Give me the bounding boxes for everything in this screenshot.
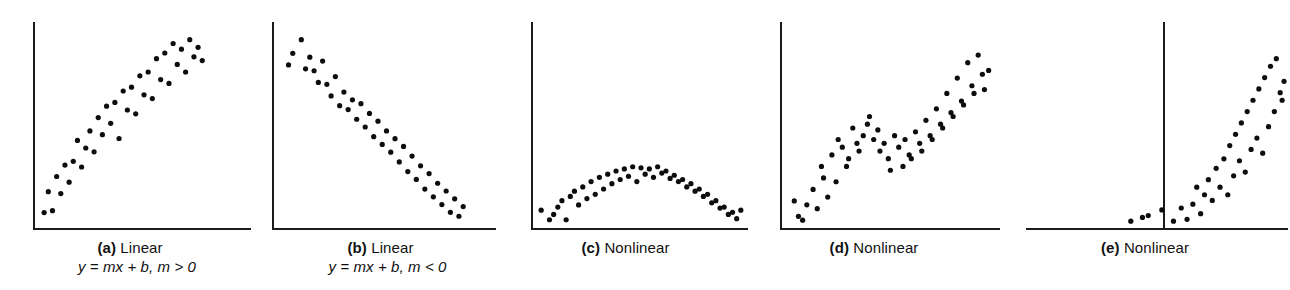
data-point xyxy=(363,124,368,129)
data-point xyxy=(1260,151,1265,156)
data-point xyxy=(982,87,987,92)
data-point xyxy=(1146,213,1151,218)
data-point xyxy=(846,156,851,161)
data-point xyxy=(980,72,985,77)
data-point xyxy=(316,80,321,85)
data-point xyxy=(121,88,126,93)
panel-d-plot xyxy=(748,0,1000,235)
panel-d-datapoints xyxy=(792,52,992,222)
data-point xyxy=(83,145,88,150)
data-point xyxy=(730,210,735,215)
data-point xyxy=(877,148,882,153)
data-point xyxy=(137,73,142,78)
panel-e-name: Nonlinear xyxy=(1124,239,1189,256)
panel-c-datapoints xyxy=(539,164,744,222)
data-point xyxy=(668,176,673,181)
data-point xyxy=(341,89,346,94)
data-point xyxy=(42,210,47,215)
data-point xyxy=(713,198,718,203)
data-point xyxy=(833,179,838,184)
data-point xyxy=(333,74,338,79)
data-point xyxy=(867,114,872,119)
data-point xyxy=(697,186,702,191)
data-point xyxy=(900,164,905,169)
data-point xyxy=(825,195,830,200)
data-point xyxy=(183,69,188,74)
data-point xyxy=(613,168,618,173)
data-point xyxy=(844,164,849,169)
data-point xyxy=(146,69,151,74)
data-point xyxy=(688,181,693,186)
data-point xyxy=(58,191,63,196)
panel-a-axes xyxy=(33,22,251,229)
data-point xyxy=(609,181,614,186)
data-point xyxy=(605,172,610,177)
figure-scatterplot-patterns: (a) Linear y = mx + b, m > 0 (b) Linear … xyxy=(0,0,1290,290)
data-point xyxy=(1217,185,1222,190)
data-point xyxy=(976,52,981,57)
data-point xyxy=(892,133,897,138)
data-point xyxy=(930,137,935,142)
data-point xyxy=(672,173,677,178)
data-point xyxy=(593,192,598,197)
panel-b-equation-rhs: m < 0 xyxy=(408,258,446,275)
data-point xyxy=(861,133,866,138)
data-point xyxy=(559,198,564,203)
data-point xyxy=(200,58,205,63)
data-point xyxy=(800,218,805,223)
data-point xyxy=(384,128,389,133)
data-point xyxy=(354,117,359,122)
data-point xyxy=(1266,124,1271,129)
data-point xyxy=(643,172,648,177)
data-point xyxy=(568,194,573,199)
data-point xyxy=(431,194,436,199)
data-point xyxy=(955,75,960,80)
data-point xyxy=(158,77,163,82)
data-point xyxy=(804,202,809,207)
panel-a-datapoints xyxy=(42,37,205,215)
panel-c-name: Nonlinear xyxy=(604,239,669,256)
data-point xyxy=(986,68,991,73)
panel-c-plot xyxy=(503,0,748,235)
data-point xyxy=(626,174,631,179)
data-point xyxy=(303,66,308,71)
data-point xyxy=(738,208,743,213)
data-point xyxy=(125,107,130,112)
data-point xyxy=(971,91,976,96)
data-point xyxy=(191,54,196,59)
panel-d: (d) Nonlinear xyxy=(748,0,1000,290)
panel-e-caption: (e) Nonlinear xyxy=(1000,238,1290,257)
data-point xyxy=(1268,64,1273,69)
data-point xyxy=(663,168,668,173)
data-point xyxy=(1202,192,1207,197)
data-point xyxy=(1194,185,1199,190)
panel-a-plot xyxy=(0,0,260,235)
data-point xyxy=(1262,75,1267,80)
data-point xyxy=(1254,135,1259,140)
data-point xyxy=(1231,173,1236,178)
panel-a-caption: (a) Linear y = mx + b, m > 0 xyxy=(0,238,260,276)
data-point xyxy=(634,179,639,184)
data-point xyxy=(888,168,893,173)
data-point xyxy=(815,206,820,211)
data-point xyxy=(576,202,581,207)
data-point xyxy=(638,165,643,170)
panel-b-equation: y = mx + b, m < 0 xyxy=(258,257,503,276)
data-point xyxy=(195,45,200,50)
data-point xyxy=(555,204,560,209)
data-point xyxy=(564,217,569,222)
data-point xyxy=(367,111,372,116)
data-point xyxy=(871,137,876,142)
data-point xyxy=(133,111,138,116)
data-point xyxy=(547,217,552,222)
data-point xyxy=(71,159,76,164)
data-point xyxy=(414,177,419,182)
panel-a-equation: y = mx + b, m > 0 xyxy=(0,257,260,276)
data-point xyxy=(934,106,939,111)
data-point xyxy=(840,145,845,150)
panel-b-datapoints xyxy=(286,37,466,219)
data-point xyxy=(54,174,59,179)
data-point xyxy=(917,141,922,146)
data-point xyxy=(821,175,826,180)
data-point xyxy=(392,136,397,141)
